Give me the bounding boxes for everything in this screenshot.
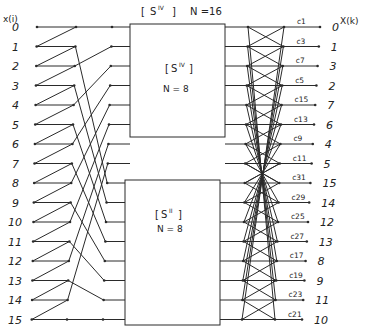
lower-block-superscript: II <box>169 207 173 214</box>
stage1-diagonal <box>32 300 68 320</box>
stage1-diagonal <box>35 105 73 125</box>
output-index-label: 4 <box>325 138 332 151</box>
title-bracket-close: ] <box>172 6 176 17</box>
coefficient-label: c7 <box>296 56 305 65</box>
stage1-diagonal <box>32 281 68 301</box>
input-node <box>31 299 34 302</box>
coef-node <box>282 45 285 48</box>
output-index-label: 3 <box>330 60 337 73</box>
coef-node <box>278 182 281 185</box>
stage1-node <box>72 123 75 126</box>
output-node <box>306 240 309 243</box>
input-labels: 0123456789101112131415 <box>8 21 22 327</box>
output-node <box>313 123 316 126</box>
stage1-diagonal <box>35 144 73 164</box>
coef-node <box>279 143 282 146</box>
input-node <box>32 221 35 224</box>
output-index-label: 8 <box>318 255 325 268</box>
block-output-node <box>242 279 245 282</box>
coef-node <box>282 65 285 68</box>
title-base: S <box>150 6 156 17</box>
coefficient-label: c15 <box>295 95 309 104</box>
title-size-label: N =16 <box>190 6 222 17</box>
block-input-node <box>108 123 111 126</box>
stage1-node <box>73 84 76 87</box>
lower-block-bracket-close: ] <box>178 209 182 220</box>
coef-node <box>283 26 286 29</box>
output-index-label: 11 <box>315 294 329 307</box>
output-index-label: 14 <box>321 197 335 210</box>
stage1-diagonal <box>36 47 75 67</box>
output-node <box>315 84 318 87</box>
stage1-node <box>69 221 72 224</box>
stage1-node <box>71 143 74 146</box>
input-index-label: 8 <box>12 177 19 190</box>
coefficient-label: c17 <box>290 251 304 260</box>
output-node <box>307 221 310 224</box>
stage1-node <box>68 240 71 243</box>
block-input-node <box>103 279 106 282</box>
output-node <box>309 182 312 185</box>
coefficient-label: c11 <box>293 154 307 163</box>
stage2-wire <box>68 281 103 301</box>
stage1-diagonal <box>36 86 75 106</box>
stage1-diagonal <box>34 183 71 203</box>
block-output-node <box>244 182 247 185</box>
input-index-label: 14 <box>8 294 22 307</box>
output-index-label: 7 <box>327 99 334 112</box>
stage1-node <box>72 104 75 107</box>
input-index-label: 3 <box>12 80 19 93</box>
input-node <box>36 26 39 29</box>
output-index-label: 15 <box>322 177 336 190</box>
coef-node <box>277 201 280 204</box>
stage1-diagonal <box>34 164 72 184</box>
block-output-node <box>246 65 249 68</box>
upper-block-bracket-open: [ <box>165 63 169 74</box>
coef-node <box>274 299 277 302</box>
input-index-label: 4 <box>12 99 19 112</box>
input-index-label: 10 <box>8 216 22 229</box>
output-node <box>302 299 305 302</box>
stage1-node <box>70 182 73 185</box>
stage1-diagonal <box>33 222 70 242</box>
coef-node <box>280 123 283 126</box>
title-bracket-open: [ <box>141 6 145 17</box>
diagram-title: [ S IV ] N =16 <box>141 4 222 17</box>
output-index-label: 0 <box>332 21 339 34</box>
input-index-label: 5 <box>12 119 19 132</box>
upper-block-base: S <box>171 63 177 74</box>
output-index-label: 13 <box>319 236 333 249</box>
output-node <box>312 143 315 146</box>
input-index-label: 12 <box>8 255 22 268</box>
stage2-wire <box>69 144 109 261</box>
coefficient-label: c9 <box>293 134 302 143</box>
input-index-label: 2 <box>12 60 19 73</box>
output-index-label: 12 <box>320 216 334 229</box>
input-node <box>32 240 35 243</box>
block-input-node <box>107 143 110 146</box>
output-index-label: 2 <box>328 80 335 93</box>
lower-block-s2-n8: [ S II ] N = 8 <box>125 180 220 325</box>
output-node <box>318 45 321 48</box>
coef-node <box>279 162 282 165</box>
output-node <box>303 279 306 282</box>
block-input-node <box>104 260 107 263</box>
stage1-node <box>74 65 77 68</box>
coefficient-label: c27 <box>290 232 304 241</box>
block-input-node <box>102 299 105 302</box>
coefficient-label: c13 <box>294 115 308 124</box>
lower-block-bracket-open: [ <box>155 209 159 220</box>
upper-block-superscript: IV <box>179 61 186 68</box>
block-input-node <box>104 240 107 243</box>
block-output-node <box>244 162 247 165</box>
stage2-wire <box>75 47 112 67</box>
block-input-node <box>105 221 108 224</box>
coef-node <box>280 104 283 107</box>
stage1-node <box>74 45 77 48</box>
output-node <box>316 65 319 68</box>
stage1-diagonal <box>34 203 71 223</box>
output-node <box>308 201 311 204</box>
output-index-label: 5 <box>324 158 331 171</box>
coef-node <box>276 240 279 243</box>
input-index-label: 15 <box>8 314 22 327</box>
